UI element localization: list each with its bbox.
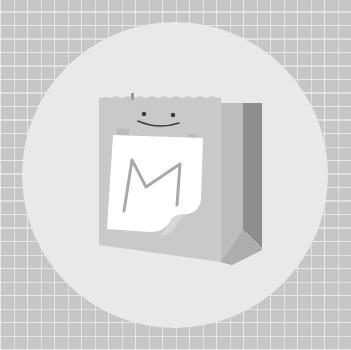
shopping-bag-illustration — [0, 0, 351, 350]
bag-tag — [131, 93, 134, 100]
left-eye-icon — [142, 112, 146, 116]
bag-side-shadow — [243, 103, 262, 248]
right-eye-icon — [171, 113, 175, 117]
